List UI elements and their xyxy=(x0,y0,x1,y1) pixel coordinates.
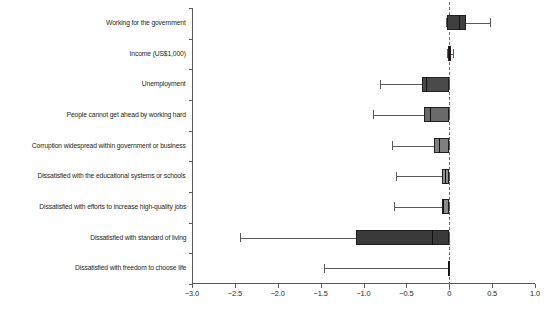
x-axis-tick xyxy=(364,284,365,288)
box-rect xyxy=(447,15,466,30)
plot-area xyxy=(192,8,535,284)
y-axis-tick xyxy=(189,223,192,224)
x-axis-tick-label: 0.5 xyxy=(487,290,497,298)
category-label: Working for the government xyxy=(106,19,186,27)
box-rect xyxy=(356,230,449,245)
whisker-cap-low xyxy=(240,233,241,242)
whisker-cap-low xyxy=(392,141,393,150)
box-rect xyxy=(434,138,449,153)
box-plot-chart: Working for the governmentIncome (US$1,0… xyxy=(0,0,548,313)
x-axis-tick-label: −0.5 xyxy=(399,290,413,298)
median-line xyxy=(432,230,433,245)
box-whisker-row xyxy=(192,164,535,190)
y-axis-tick xyxy=(189,100,192,101)
whisker-cap-low xyxy=(324,264,325,273)
x-axis-tick-label: −2.0 xyxy=(271,290,285,298)
box-rect xyxy=(424,107,449,122)
x-axis-tick xyxy=(321,284,322,288)
box-whisker-row xyxy=(192,194,535,220)
median-line xyxy=(439,138,440,153)
y-axis-tick xyxy=(189,161,192,162)
category-label: Dissatisfied with standard of living xyxy=(90,234,186,242)
whisker-cap-high xyxy=(449,80,450,89)
category-label: Corruption widespread within government … xyxy=(32,142,186,150)
y-axis-tick xyxy=(189,253,192,254)
category-label: People cannot get ahead by working hard xyxy=(67,111,186,119)
box-whisker-row xyxy=(192,41,535,67)
y-axis-tick xyxy=(189,192,192,193)
whisker-cap-high xyxy=(449,202,450,211)
y-axis-tick xyxy=(189,8,192,9)
median-line xyxy=(449,46,450,61)
median-line xyxy=(445,169,446,184)
x-axis-tick xyxy=(278,284,279,288)
whisker-line xyxy=(324,268,449,269)
box-whisker-row xyxy=(192,256,535,282)
median-line xyxy=(459,15,460,30)
x-axis-tick xyxy=(235,284,236,288)
median-line xyxy=(426,77,427,92)
x-axis-tick xyxy=(406,284,407,288)
box-whisker-row xyxy=(192,225,535,251)
y-axis-tick xyxy=(189,69,192,70)
median-line xyxy=(448,261,449,276)
x-axis-tick-label: −2.5 xyxy=(228,290,242,298)
whisker-cap-high xyxy=(490,18,491,27)
x-axis-tick-label: 0 xyxy=(447,290,451,298)
box-whisker-row xyxy=(192,102,535,128)
y-axis-tick xyxy=(189,131,192,132)
x-axis-tick-label: −1.5 xyxy=(314,290,328,298)
median-line xyxy=(430,107,431,122)
category-label: Dissatisfied with freedom to choose life xyxy=(75,264,186,272)
box-whisker-row xyxy=(192,10,535,36)
x-axis-tick-label: −1.0 xyxy=(356,290,370,298)
x-axis-tick xyxy=(449,284,450,288)
x-axis-tick-label: 1.0 xyxy=(530,290,540,298)
box-whisker-row xyxy=(192,72,535,98)
category-label: Income (US$1,000) xyxy=(130,50,186,58)
category-label: Dissatisfied with efforts to increase hi… xyxy=(39,203,186,211)
x-axis-tick xyxy=(192,284,193,288)
category-label: Dissatisfied with the educational system… xyxy=(38,172,186,180)
x-axis-tick xyxy=(492,284,493,288)
whisker-cap-high xyxy=(449,110,450,119)
x-axis-ticks: −3.0−2.5−2.0−1.5−1.0−0.500.51.0 xyxy=(192,284,535,306)
whisker-cap-low xyxy=(394,202,395,211)
box-whisker-row xyxy=(192,133,535,159)
median-line xyxy=(443,199,444,214)
y-axis-tick xyxy=(189,39,192,40)
whisker-cap-low xyxy=(396,172,397,181)
category-labels: Working for the governmentIncome (US$1,0… xyxy=(0,8,186,284)
category-label: Unemployment xyxy=(142,80,186,88)
x-axis-tick-label: −3.0 xyxy=(185,290,199,298)
whisker-line xyxy=(396,176,449,177)
whisker-cap-low xyxy=(373,110,374,119)
whisker-cap-high xyxy=(449,233,450,242)
whisker-cap-high xyxy=(449,172,450,181)
whisker-cap-high xyxy=(449,141,450,150)
whisker-cap-low xyxy=(380,80,381,89)
x-axis-tick xyxy=(535,284,536,288)
whisker-cap-high xyxy=(453,49,454,58)
